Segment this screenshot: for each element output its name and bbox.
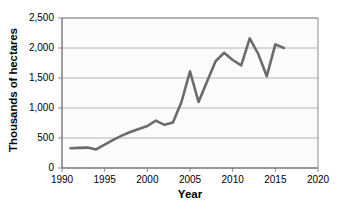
x-axis-ticks: 1990199520002005201020152020 (51, 168, 330, 185)
chart-figure: Thousands of hectares 05001,0001,5002,00… (0, 0, 340, 216)
x-axis-title: Year (62, 188, 318, 200)
x-tick-label: 1995 (94, 174, 117, 185)
y-tick-label: 500 (37, 132, 54, 143)
x-tick-label: 2000 (136, 174, 159, 185)
x-tick-label: 2005 (179, 174, 202, 185)
y-tick-label: 1,500 (29, 72, 54, 83)
y-tick-label: 2,000 (29, 42, 54, 53)
plot-area-background (62, 18, 318, 168)
y-tick-label: 1,000 (29, 102, 54, 113)
plot-background (62, 18, 318, 168)
x-tick-label: 2020 (307, 174, 330, 185)
line-chart-plot: 05001,0001,5002,0002,500 199019952000200… (0, 0, 340, 216)
y-axis-ticks: 05001,0001,5002,0002,500 (29, 12, 62, 173)
y-tick-label: 2,500 (29, 12, 54, 23)
y-tick-label: 0 (48, 162, 54, 173)
x-tick-label: 2015 (264, 174, 287, 185)
x-tick-label: 2010 (222, 174, 245, 185)
x-tick-label: 1990 (51, 174, 74, 185)
